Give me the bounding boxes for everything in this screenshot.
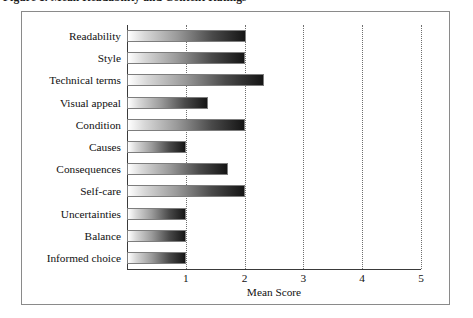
- category-label: Informed choice: [47, 252, 121, 264]
- bar: [127, 141, 186, 153]
- x-tick-label: 2: [242, 272, 248, 284]
- bar-row: Visual appeal: [127, 92, 421, 114]
- bar-row: Self-care: [127, 180, 421, 202]
- bar: [127, 97, 208, 109]
- category-label: Uncertainties: [61, 208, 121, 220]
- bar: [127, 74, 264, 86]
- category-label: Condition: [76, 119, 121, 131]
- category-label: Self-care: [80, 185, 121, 197]
- x-axis-label: Mean Score: [127, 286, 421, 298]
- category-label: Technical terms: [49, 74, 121, 86]
- bar: [127, 208, 186, 220]
- x-tick-label: 3: [301, 272, 307, 284]
- category-label: Consequences: [56, 163, 121, 175]
- bar: [127, 119, 245, 131]
- figure-caption: Figure 1. Mean Readability and Content R…: [3, 0, 247, 3]
- category-label: Balance: [85, 230, 121, 242]
- x-tick-label: 5: [418, 272, 424, 284]
- bar-row: Technical terms: [127, 69, 421, 91]
- category-label: Causes: [89, 141, 121, 153]
- bar-row: Style: [127, 47, 421, 69]
- bar: [127, 230, 186, 242]
- gridline-5: [421, 25, 422, 269]
- bar: [127, 30, 246, 42]
- bar-row: Informed choice: [127, 247, 421, 269]
- x-tick-label: 4: [359, 272, 365, 284]
- bar: [127, 163, 228, 175]
- figure-caption-strip: Figure 1. Mean Readability and Content R…: [0, 0, 473, 9]
- bar-row: Causes: [127, 136, 421, 158]
- category-label: Style: [98, 52, 121, 64]
- bar-row: Uncertainties: [127, 202, 421, 224]
- bar-row: Condition: [127, 114, 421, 136]
- category-label: Readability: [69, 30, 121, 42]
- plot-area: ReadabilityStyleTechnical termsVisual ap…: [127, 25, 421, 269]
- bar-row: Readability: [127, 25, 421, 47]
- bar-row: Balance: [127, 225, 421, 247]
- x-axis-line: [127, 269, 421, 270]
- bar-row: Consequences: [127, 158, 421, 180]
- bar: [127, 185, 245, 197]
- bar: [127, 52, 245, 64]
- figure-frame: ReadabilityStyleTechnical termsVisual ap…: [21, 11, 450, 305]
- category-label: Visual appeal: [60, 97, 121, 109]
- bar: [127, 252, 186, 264]
- x-tick-label: 1: [183, 272, 189, 284]
